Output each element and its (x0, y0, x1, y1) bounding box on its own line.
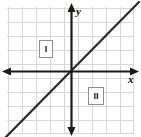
coordinate-plane-figure: y x I II (0, 0, 141, 137)
coordinate-plane-svg (0, 0, 141, 137)
y-axis-label: y (76, 6, 81, 17)
region-label-i: I (39, 40, 53, 58)
x-axis-label: x (128, 74, 134, 85)
region-label-ii: II (88, 87, 104, 105)
